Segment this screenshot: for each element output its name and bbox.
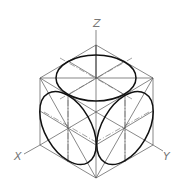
x-axis [24, 145, 40, 154]
y-axis [153, 145, 163, 151]
y-axis-label: Y [163, 150, 171, 163]
cube-edges [40, 45, 153, 178]
z-axis-label: Z [92, 17, 101, 30]
x-axis-label: X [13, 150, 22, 163]
isometric-cube-diagram: Z X Y [0, 0, 187, 193]
